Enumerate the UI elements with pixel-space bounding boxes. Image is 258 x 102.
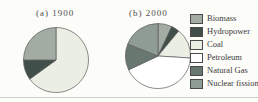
pie-2000-title: (b) 2000 (129, 8, 168, 18)
petroleum-swatch-icon (190, 53, 203, 63)
coal-swatch-icon (190, 40, 203, 50)
pie-chart-1900 (21, 25, 91, 95)
biomass-swatch-icon (190, 14, 203, 24)
pie-1900-svg (21, 25, 91, 95)
legend-label: Hydropower (207, 27, 250, 36)
pie-2000-svg (123, 21, 193, 91)
legend-label: Natural Gas (207, 66, 248, 75)
legend-item-biomass: Biomass (190, 12, 258, 25)
figure-bottom-rule (0, 97, 258, 98)
figure-energy-pie-charts: (a) 1900 (b) 2000 Biomass Hydropower Coa… (0, 0, 258, 102)
hydropower-swatch-icon (190, 27, 203, 37)
legend-item-petroleum: Petroleum (190, 51, 258, 64)
legend-label: Nuclear fission (207, 79, 258, 88)
legend-item-coal: Coal (190, 38, 258, 51)
natural-gas-swatch-icon (190, 66, 203, 76)
legend-item-nuclear-fission: Nuclear fission (190, 77, 258, 90)
legend-item-hydropower: Hydropower (190, 25, 258, 38)
legend-item-natural-gas: Natural Gas (190, 64, 258, 77)
legend-label: Petroleum (207, 53, 242, 62)
legend-label: Biomass (207, 14, 236, 23)
nuclear-fission-swatch-icon (190, 79, 203, 89)
pie-1900-title: (a) 1900 (36, 8, 74, 18)
legend-label: Coal (207, 40, 223, 49)
pie-slice-biomass (24, 28, 57, 61)
legend: Biomass Hydropower Coal Petroleum Natura… (190, 12, 258, 90)
pie-chart-2000 (123, 21, 193, 91)
